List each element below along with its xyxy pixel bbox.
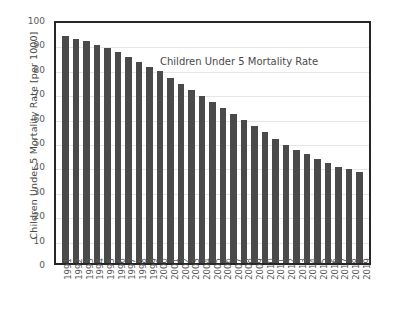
x-tick-slot: 2002 xyxy=(175,267,186,311)
bar[interactable] xyxy=(125,57,132,263)
bar[interactable] xyxy=(136,62,143,263)
x-tick-slot: 2015 xyxy=(314,267,325,311)
bar-slot xyxy=(60,23,71,263)
bar-slot xyxy=(144,23,155,263)
y-axis-tick-label: 80 xyxy=(34,65,45,75)
x-tick-slot: 1993 xyxy=(79,267,90,311)
bar-slot xyxy=(71,23,82,263)
x-tick-slot: 1991 xyxy=(58,267,69,311)
bar[interactable] xyxy=(241,120,248,263)
bar[interactable] xyxy=(251,126,258,263)
bar[interactable] xyxy=(314,159,321,263)
x-tick-slot: 2012 xyxy=(282,267,293,311)
x-tick-slot: 1995 xyxy=(101,267,112,311)
bar[interactable] xyxy=(73,39,80,263)
bar[interactable] xyxy=(262,132,269,263)
bar-slot xyxy=(102,23,113,263)
y-axis-tick-labels: 1009080706050403020100 xyxy=(0,21,50,265)
y-axis-tick-label: 30 xyxy=(34,187,45,197)
bar[interactable] xyxy=(283,145,290,263)
y-axis-tick-label: 20 xyxy=(34,211,45,221)
bar[interactable] xyxy=(188,90,195,263)
bar[interactable] xyxy=(220,108,227,263)
x-tick-slot: 1999 xyxy=(143,267,154,311)
x-tick-slot: 2018 xyxy=(346,267,357,311)
x-tick-slot: 1996 xyxy=(111,267,122,311)
y-axis-tick-label: 60 xyxy=(34,114,45,124)
y-axis-tick-label: 50 xyxy=(34,138,45,148)
bar-slot xyxy=(134,23,145,263)
y-axis-tick-label: 10 xyxy=(34,236,45,246)
bar-slot xyxy=(92,23,103,263)
bar-chart: Children Under 5 Mortality Rate [per 100… xyxy=(0,0,396,313)
bar[interactable] xyxy=(104,48,111,263)
bar[interactable] xyxy=(199,96,206,263)
x-tick-slot: 2005 xyxy=(207,267,218,311)
x-tick-slot: 2014 xyxy=(303,267,314,311)
bar[interactable] xyxy=(346,169,353,263)
y-axis-tick-label: 0 xyxy=(39,260,45,270)
bar[interactable] xyxy=(335,167,342,263)
bar[interactable] xyxy=(94,45,101,263)
bar[interactable] xyxy=(272,139,279,263)
x-tick-slot: 2019 xyxy=(356,267,367,311)
bar-slot xyxy=(81,23,92,263)
bar[interactable] xyxy=(178,84,185,263)
y-axis-tick-label: 100 xyxy=(28,16,45,26)
bar[interactable] xyxy=(167,78,174,263)
bar-slot xyxy=(113,23,124,263)
bar[interactable] xyxy=(209,102,216,263)
y-axis-tick-label: 90 xyxy=(34,40,45,50)
x-tick-slot: 1994 xyxy=(90,267,101,311)
bar-slot xyxy=(344,23,355,263)
bar[interactable] xyxy=(157,71,164,263)
bar[interactable] xyxy=(325,163,332,263)
x-tick-slot: 1997 xyxy=(122,267,133,311)
chart-title: Children Under 5 Mortality Rate xyxy=(160,56,318,67)
x-tick-slot: 2009 xyxy=(250,267,261,311)
x-axis-tick-label: 2019 xyxy=(362,258,372,280)
bar[interactable] xyxy=(83,41,90,263)
bar-slot xyxy=(333,23,344,263)
bar[interactable] xyxy=(146,67,153,263)
x-tick-slot: 2016 xyxy=(324,267,335,311)
x-tick-slot: 1998 xyxy=(133,267,144,311)
x-axis-tick-labels: 1991199219931994199519961997199819992000… xyxy=(54,267,371,311)
bar[interactable] xyxy=(304,154,311,263)
x-tick-slot: 1992 xyxy=(69,267,80,311)
x-tick-slot: 2010 xyxy=(260,267,271,311)
x-tick-slot: 2011 xyxy=(271,267,282,311)
bar[interactable] xyxy=(293,150,300,263)
y-axis-tick-label: 70 xyxy=(34,89,45,99)
x-tick-slot: 2013 xyxy=(292,267,303,311)
bar-slot xyxy=(323,23,334,263)
bar[interactable] xyxy=(356,172,363,264)
y-axis-tick-label: 40 xyxy=(34,162,45,172)
x-tick-slot: 2007 xyxy=(229,267,240,311)
x-tick-slot: 2006 xyxy=(218,267,229,311)
x-tick-slot: 2000 xyxy=(154,267,165,311)
bar[interactable] xyxy=(115,52,122,263)
bar-slot xyxy=(354,23,365,263)
bar[interactable] xyxy=(230,114,237,263)
x-tick-slot: 2017 xyxy=(335,267,346,311)
x-tick-slot: 2001 xyxy=(165,267,176,311)
x-tick-slot: 2008 xyxy=(239,267,250,311)
x-tick-slot: 2003 xyxy=(186,267,197,311)
x-tick-slot: 2004 xyxy=(197,267,208,311)
bar-slot xyxy=(123,23,134,263)
bar[interactable] xyxy=(62,36,69,263)
